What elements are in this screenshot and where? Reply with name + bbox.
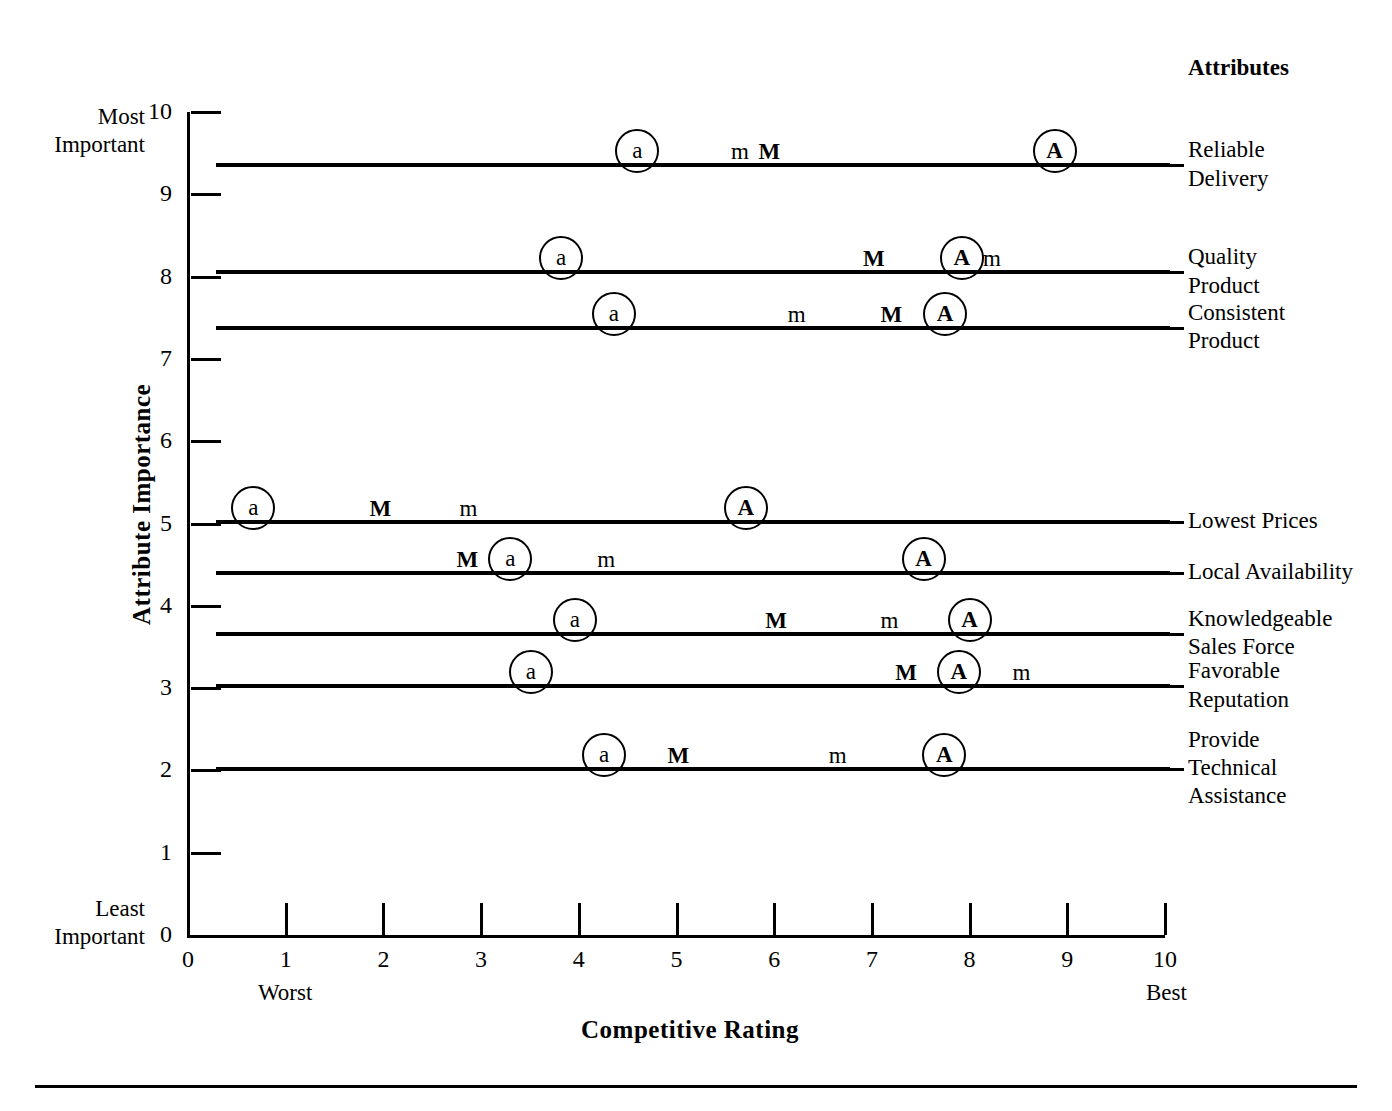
y-axis-tick-label: 2 [132, 757, 172, 781]
marker-minor-m[interactable]: m [586, 548, 626, 571]
y-axis-tick-label: 1 [132, 840, 172, 864]
marker-minor-m[interactable]: m [972, 247, 1012, 270]
attribute-label: Favorable Reputation [1188, 657, 1289, 713]
attribute-row-line [216, 632, 1170, 636]
marker-a-circled[interactable]: A [1033, 129, 1077, 173]
x-axis-tick-label: 10 [1145, 947, 1185, 971]
y-axis-tick [191, 193, 221, 196]
x-axis-tick [1164, 903, 1167, 935]
y-axis-tick-label: 3 [132, 675, 172, 699]
attribute-row-line [216, 520, 1170, 524]
marker-major-M[interactable]: M [447, 548, 487, 571]
y-axis-tick-label: 0 [132, 922, 172, 946]
marker-minor-m[interactable]: m [448, 497, 488, 520]
y-axis-tick [191, 440, 221, 443]
marker-a-circled[interactable]: a [488, 537, 532, 581]
footer-divider [35, 1085, 1357, 1088]
x-axis-tick-label: 1 [266, 947, 306, 971]
attribute-label: Provide Technical Assistance [1188, 726, 1286, 810]
x-axis-tick [676, 903, 679, 935]
x-axis-tick [578, 903, 581, 935]
x-axis-tick-label: 5 [657, 947, 697, 971]
x-axis-tick-label: 3 [461, 947, 501, 971]
y-axis-tick-label: 9 [132, 181, 172, 205]
y-axis-tick [191, 605, 221, 608]
marker-minor-m[interactable]: m [818, 744, 858, 767]
attribute-label-tick [1170, 572, 1184, 575]
marker-major-M[interactable]: M [871, 303, 911, 326]
y-axis-tick-label: 8 [132, 264, 172, 288]
x-axis-tick [480, 903, 483, 935]
attributes-column-header: Attributes [1188, 55, 1289, 81]
attribute-label-tick [1170, 271, 1184, 274]
marker-minor-m[interactable]: m [777, 303, 817, 326]
marker-a-circled[interactable]: A [948, 598, 992, 642]
y-axis-tick [191, 276, 221, 279]
x-axis-tick-label: 2 [363, 947, 403, 971]
marker-major-M[interactable]: M [854, 247, 894, 270]
x-axis-tick-label: 6 [754, 947, 794, 971]
y-axis-line [187, 112, 190, 938]
x-axis-tick [773, 903, 776, 935]
attribute-row-line [216, 270, 1170, 274]
x-axis-tick-label: 9 [1047, 947, 1087, 971]
y-axis-top-note: Most Important [5, 103, 145, 159]
attribute-row-line [216, 163, 1170, 167]
x-axis-left-note: Worst [258, 980, 312, 1006]
x-axis-tick [969, 903, 972, 935]
marker-a-circled[interactable]: A [724, 486, 768, 530]
x-axis-line [188, 935, 1165, 938]
x-axis-tick-label: 4 [559, 947, 599, 971]
x-axis-tick [1066, 903, 1069, 935]
y-axis-tick [191, 852, 221, 855]
marker-major-M[interactable]: M [756, 609, 796, 632]
marker-minor-m[interactable]: m [1001, 661, 1041, 684]
attribute-row-line [216, 326, 1170, 330]
marker-a-circled[interactable]: A [937, 650, 981, 694]
marker-major-M[interactable]: M [749, 140, 789, 163]
y-axis-tick-label: 5 [132, 511, 172, 535]
y-axis-bottom-note: Least Important [5, 895, 145, 951]
attribute-label-tick [1170, 521, 1184, 524]
marker-major-M[interactable]: M [360, 497, 400, 520]
attribute-label: Local Availability [1188, 558, 1353, 586]
marker-major-M[interactable]: M [886, 661, 926, 684]
x-axis-tick-label: 8 [950, 947, 990, 971]
marker-minor-m[interactable]: m [869, 609, 909, 632]
marker-major-M[interactable]: M [658, 744, 698, 767]
x-axis-tick [871, 903, 874, 935]
y-axis-tick-label: 7 [132, 346, 172, 370]
x-axis-tick-label: 0 [168, 947, 208, 971]
marker-a-circled[interactable]: a [231, 486, 275, 530]
x-axis-tick [285, 903, 288, 935]
marker-a-circled[interactable]: A [922, 733, 966, 777]
chart-canvas: Attribute Importance Competitive Rating … [0, 0, 1392, 1111]
attribute-label: Quality Product [1188, 243, 1260, 299]
attribute-label: Reliable Delivery [1188, 136, 1268, 192]
marker-a-circled[interactable]: a [553, 598, 597, 642]
y-axis-tick [191, 111, 221, 114]
x-axis-tick [382, 903, 385, 935]
y-axis-tick-label: 4 [132, 593, 172, 617]
attribute-label: Knowledgeable Sales Force [1188, 605, 1332, 661]
attribute-label-tick [1170, 768, 1184, 771]
marker-a-circled[interactable]: A [902, 537, 946, 581]
y-axis-tick [191, 358, 221, 361]
x-axis-right-note: Best [1146, 980, 1187, 1006]
attribute-row-line [216, 571, 1170, 575]
attribute-label: Consistent Product [1188, 299, 1285, 355]
attribute-row-line [216, 684, 1170, 688]
y-axis-title: Attribute Importance [128, 384, 156, 625]
attribute-row-line [216, 767, 1170, 771]
attribute-label-tick [1170, 164, 1184, 167]
attribute-label: Lowest Prices [1188, 507, 1318, 535]
y-axis-tick-label: 6 [132, 428, 172, 452]
attribute-label-tick [1170, 327, 1184, 330]
y-axis-tick-label: 10 [132, 99, 172, 123]
attribute-label-tick [1170, 685, 1184, 688]
x-axis-title: Competitive Rating [490, 1016, 890, 1044]
x-axis-tick-label: 7 [852, 947, 892, 971]
marker-a-circled[interactable]: a [582, 733, 626, 777]
attribute-label-tick [1170, 633, 1184, 636]
